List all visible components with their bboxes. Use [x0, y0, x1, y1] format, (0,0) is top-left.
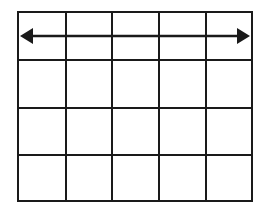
- grid-canvas: [0, 0, 264, 206]
- grid-lines: [18, 12, 252, 201]
- arrow-right-head-icon: [237, 28, 250, 44]
- double-arrow: [20, 28, 250, 44]
- arrow-left-head-icon: [20, 28, 33, 44]
- grid-diagram: [0, 0, 264, 206]
